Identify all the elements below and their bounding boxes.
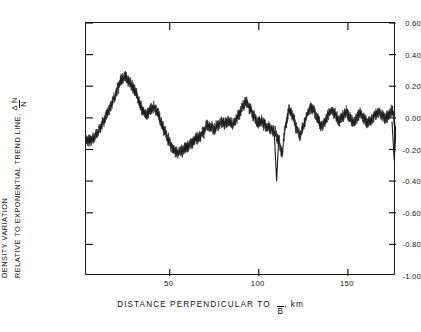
x-tick-label-0: 50 — [149, 279, 189, 288]
plot-frame — [85, 22, 395, 275]
x-tick-label-2: 150 — [327, 279, 367, 288]
delta-n-over-n-symbol: Δ NN — [11, 96, 27, 112]
figure-density-variation: DENSITY VARIATION RELATIVE TO EXPONENTIA… — [0, 0, 421, 332]
data-trace — [86, 71, 396, 181]
plot-canvas — [86, 23, 396, 276]
x-axis-title-suffix: , km — [284, 300, 304, 309]
b-letter: B — [277, 308, 284, 316]
x-axis-ticks — [170, 23, 348, 276]
trace-band — [86, 71, 396, 158]
fraction-numerator: Δ N — [11, 96, 19, 112]
trace-spike-0 — [274, 136, 278, 181]
x-axis-title: DISTANCE PERPENDICULAR TO B, km — [0, 300, 421, 316]
fraction-denominator: N — [19, 100, 28, 108]
y-axis-title-line-1: DENSITY VARIATION — [0, 96, 9, 278]
y-axis-title-line-2: RELATIVE TO EXPONENTIAL TREND LINE,Δ NN — [10, 96, 26, 278]
x-tick-label-1: 100 — [238, 279, 278, 288]
y-axis-title-line-2-text: RELATIVE TO EXPONENTIAL TREND LINE, — [13, 114, 22, 278]
x-axis-title-prefix: DISTANCE PERPENDICULAR TO — [117, 300, 271, 309]
y-axis-title: DENSITY VARIATION RELATIVE TO EXPONENTIA… — [0, 0, 46, 290]
y-axis-ticks — [86, 23, 396, 244]
